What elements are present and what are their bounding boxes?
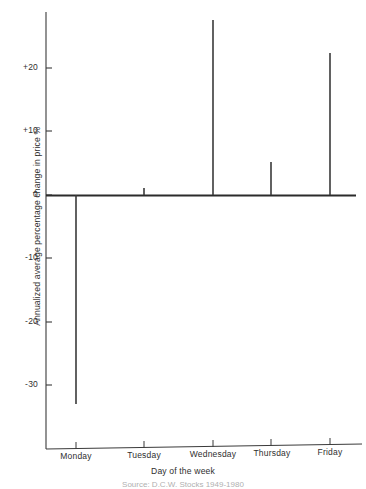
chart-canvas (0, 0, 366, 489)
y-tick-label-n30: -30 (4, 380, 38, 389)
y-tick-label-20: +20 (4, 63, 38, 72)
x-axis-title: Day of the week (0, 467, 366, 476)
x-tick-label-friday: Friday (300, 448, 360, 457)
x-axis-ticks (76, 438, 330, 449)
chart-figure: +20 +10 0 -10 -20 -30 Monday Tuesday Wed… (0, 0, 366, 489)
x-tick-label-tuesday: Tuesday (110, 451, 178, 460)
plot-area: +20 +10 0 -10 -20 -30 Monday Tuesday Wed… (0, 0, 366, 489)
source-note: Source: D.C.W. Stocks 1949-1980 (0, 481, 366, 489)
x-tick-label-monday: Monday (42, 452, 110, 461)
x-tick-label-thursday: Thursday (238, 449, 306, 458)
y-axis-ticks (46, 68, 52, 385)
data-spikes (76, 20, 330, 404)
y-axis-title: Annualized average percentage change in … (33, 101, 42, 351)
